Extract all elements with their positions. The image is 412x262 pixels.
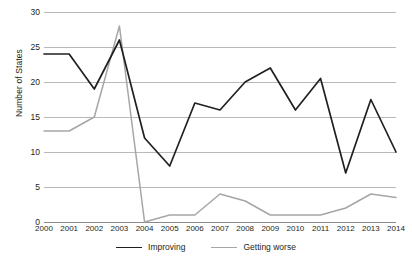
y-tick-label-25: 25 <box>6 43 40 52</box>
x-tick-label-2000: 2000 <box>35 224 53 233</box>
x-tick-label-2003: 2003 <box>111 224 129 233</box>
x-tick-label-2002: 2002 <box>85 224 103 233</box>
series-line-getting-worse <box>44 26 396 222</box>
plot-area <box>44 12 396 222</box>
x-tick-label-2006: 2006 <box>186 224 204 233</box>
y-axis-ticks: 051015202530 <box>0 12 40 222</box>
legend-swatch-improving <box>116 247 142 248</box>
y-tick-label-30: 30 <box>6 8 40 17</box>
x-tick-label-2012: 2012 <box>337 224 355 233</box>
gridline-0 <box>44 222 396 223</box>
legend-item-getting-worse[interactable]: Getting worse <box>211 243 295 252</box>
x-tick-label-2001: 2001 <box>60 224 78 233</box>
x-tick-label-2010: 2010 <box>287 224 305 233</box>
x-tick-label-2004: 2004 <box>136 224 154 233</box>
legend-item-improving[interactable]: Improving <box>116 243 185 252</box>
y-tick-label-10: 10 <box>6 148 40 157</box>
x-tick-label-2005: 2005 <box>161 224 179 233</box>
x-tick-label-2007: 2007 <box>211 224 229 233</box>
y-tick-label-5: 5 <box>6 183 40 192</box>
x-tick-label-2014: 2014 <box>387 224 405 233</box>
series-layer <box>44 12 396 222</box>
x-tick-label-2011: 2011 <box>312 224 329 233</box>
x-tick-label-2013: 2013 <box>362 224 380 233</box>
x-tick-label-2008: 2008 <box>236 224 254 233</box>
legend-swatch-getting-worse <box>211 247 237 248</box>
y-tick-label-20: 20 <box>6 78 40 87</box>
x-tick-label-2009: 2009 <box>261 224 279 233</box>
y-tick-label-15: 15 <box>6 113 40 122</box>
legend-label-getting-worse: Getting worse <box>243 243 295 252</box>
x-axis-ticks: 2000200120022003200420052006200720082009… <box>44 224 396 238</box>
legend-label-improving: Improving <box>148 243 185 252</box>
chart-legend: ImprovingGetting worse <box>0 243 412 252</box>
line-chart: Number of States 051015202530 2000200120… <box>0 0 412 262</box>
